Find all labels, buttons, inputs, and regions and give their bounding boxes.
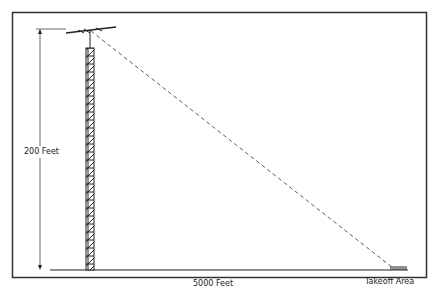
sight-line <box>91 31 393 268</box>
tower-distance-diagram: 200 Feet 5000 Feet Takeoff Area <box>0 0 439 306</box>
antenna-icon <box>66 27 116 33</box>
tower-icon <box>86 48 94 270</box>
diagram-frame <box>13 13 427 278</box>
takeoff-area-marker <box>390 267 407 269</box>
arrow-up-icon <box>38 29 42 34</box>
distance-label: 5000 Feet <box>193 279 233 288</box>
takeoff-area-label: Takeoff Area <box>364 277 414 286</box>
arrow-down-icon <box>38 265 42 270</box>
height-label: 200 Feet <box>24 147 59 156</box>
